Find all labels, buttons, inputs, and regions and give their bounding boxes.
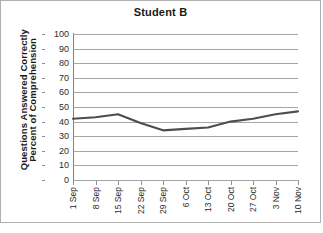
y-tick-label-0: 0	[45, 175, 69, 185]
x-tick-label-6-oct: 6 Oct	[182, 187, 191, 207]
chart-title: Student B	[1, 6, 320, 18]
y-tick-label-10: 10	[45, 160, 69, 170]
y-axis-tick-labels: 0102030405060708090100	[45, 34, 69, 180]
y-tick-label-30: 30	[45, 131, 69, 141]
x-axis-tick-labels: 1 Sep8 Sep15 Sep22 Sep29 Sep6 Oct13 Oct2…	[73, 187, 299, 231]
series-line-student-b	[73, 111, 298, 130]
y-tick-mark-0	[42, 180, 45, 181]
x-tick-mark-9	[276, 181, 277, 185]
y-tick-label-90: 90	[45, 44, 69, 54]
y-tick-label-40: 40	[45, 117, 69, 127]
y-tick-label-60: 60	[45, 87, 69, 97]
x-tick-mark-1	[96, 181, 97, 185]
x-tick-label-10-nov: 10 Nov	[294, 187, 303, 214]
plot-area	[73, 34, 298, 180]
x-tick-label-1-sep: 1 Sep	[69, 187, 78, 209]
y-tick-mark-20	[42, 151, 45, 152]
y-tick-label-80: 80	[45, 58, 69, 68]
y-tick-label-20: 20	[45, 146, 69, 156]
x-tick-label-20-oct: 20 Oct	[227, 187, 236, 212]
x-tick-label-13-oct: 13 Oct	[204, 187, 213, 212]
y-axis-title: Questions Answered Correctly Percent of …	[15, 19, 41, 181]
y-tick-mark-10	[42, 165, 45, 166]
x-tick-mark-2	[118, 181, 119, 185]
y-tick-label-100: 100	[45, 29, 69, 39]
y-tick-mark-40	[42, 122, 45, 123]
x-tick-mark-4	[163, 181, 164, 185]
x-tick-mark-7	[231, 181, 232, 185]
series-line-group	[73, 34, 298, 180]
x-tick-label-22-sep: 22 Sep	[137, 187, 146, 214]
x-tick-label-8-sep: 8 Sep	[92, 187, 101, 209]
y-tick-mark-50	[42, 107, 45, 108]
chart-container: Student B Questions Answered Correctly P…	[0, 0, 321, 223]
x-axis-ticks	[73, 181, 299, 185]
x-tick-label-29-sep: 29 Sep	[159, 187, 168, 214]
y-tick-label-70: 70	[45, 73, 69, 83]
x-tick-label-15-sep: 15 Sep	[114, 187, 123, 214]
y-tick-label-50: 50	[45, 102, 69, 112]
y-tick-mark-70	[42, 78, 45, 79]
x-tick-mark-10	[298, 181, 299, 185]
y-tick-mark-90	[42, 49, 45, 50]
x-tick-mark-3	[141, 181, 142, 185]
x-tick-mark-8	[253, 181, 254, 185]
y-tick-mark-100	[42, 34, 45, 35]
x-tick-label-3-nov: 3 Nov	[272, 187, 281, 209]
x-tick-mark-5	[186, 181, 187, 185]
y-axis-title-line-1: Percent of Comprehension	[28, 38, 38, 162]
x-tick-label-27-oct: 27 Oct	[249, 187, 258, 212]
y-tick-mark-60	[42, 92, 45, 93]
x-tick-mark-0	[73, 181, 74, 185]
x-tick-mark-6	[208, 181, 209, 185]
y-tick-mark-80	[42, 63, 45, 64]
y-tick-mark-30	[42, 136, 45, 137]
